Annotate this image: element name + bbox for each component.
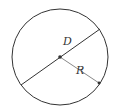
- radius-endpoint: [98, 82, 101, 85]
- diameter-label: D: [62, 35, 72, 48]
- circle-diagram: D R: [0, 0, 116, 107]
- radius-label: R: [75, 64, 84, 77]
- center-point: [58, 55, 62, 59]
